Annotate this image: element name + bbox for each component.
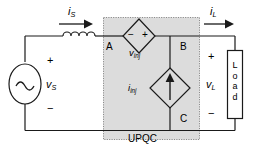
load-letter-l: L	[228, 60, 242, 71]
ac-source-circle	[9, 64, 41, 104]
load-current-arrow-head	[225, 20, 234, 29]
circuit-diagram-canvas: iS iL vS + − − + vinj iinj A B C vL + − …	[0, 0, 260, 153]
load-voltage-plus-sign: +	[208, 51, 214, 62]
source-current-label: iS	[68, 6, 75, 17]
circuit-schematic-svg	[0, 0, 260, 153]
load-voltage-minus-sign: −	[208, 108, 214, 119]
series-inductor-symbol	[63, 32, 95, 36]
injected-voltage-label: vinj	[129, 48, 140, 58]
load-voltage-label: vL	[206, 79, 216, 90]
node-label-b: B	[180, 42, 187, 52]
upqc-block-label: UPQC	[128, 133, 157, 144]
injected-voltage-plus-sign: +	[142, 30, 148, 40]
load-block-label: L o a d	[228, 60, 242, 102]
injected-current-label: iinj	[128, 83, 136, 93]
load-current-label: iL	[210, 6, 217, 17]
node-label-a: A	[106, 42, 113, 52]
supply-voltage-label: vS	[46, 79, 56, 90]
load-letter-d: d	[228, 92, 242, 103]
injected-voltage-minus-sign: −	[128, 30, 134, 40]
source-current-arrow-head	[84, 20, 93, 29]
supply-voltage-plus-sign: +	[47, 55, 53, 66]
node-label-c: C	[180, 114, 187, 124]
supply-voltage-minus-sign: −	[47, 103, 53, 114]
load-letter-o: o	[228, 71, 242, 82]
load-letter-a: a	[228, 81, 242, 92]
